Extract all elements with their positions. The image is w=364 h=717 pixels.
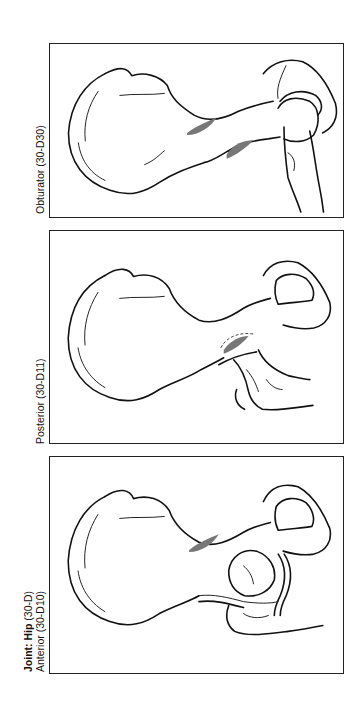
anterior-label-text: Anterior (30-D10) (34, 591, 46, 672)
panel-anterior-dislocation (49, 456, 344, 674)
panel-posterior-dislocation (49, 230, 344, 444)
obturator-label-text: Obturator (30-D30) (34, 125, 46, 214)
panel-label-posterior: Posterior (30-D11) (34, 358, 46, 444)
panel-label-anterior: Joint: Hip (30-D) Anterior (30-D10) (22, 591, 46, 672)
figure-title: Joint: Hip (30-D) (22, 591, 34, 672)
posterior-label-text: Posterior (30-D11) (34, 358, 46, 444)
figure-title-code: (30-D) (22, 591, 34, 621)
panel-label-obturator: Obturator (30-D30) (34, 125, 46, 214)
hip-anterior-illustration (50, 457, 343, 673)
hip-obturator-illustration (50, 44, 343, 217)
figure-title-prefix: Joint: Hip (22, 624, 34, 672)
hip-posterior-illustration (50, 231, 343, 443)
panel-obturator-dislocation (49, 43, 344, 218)
